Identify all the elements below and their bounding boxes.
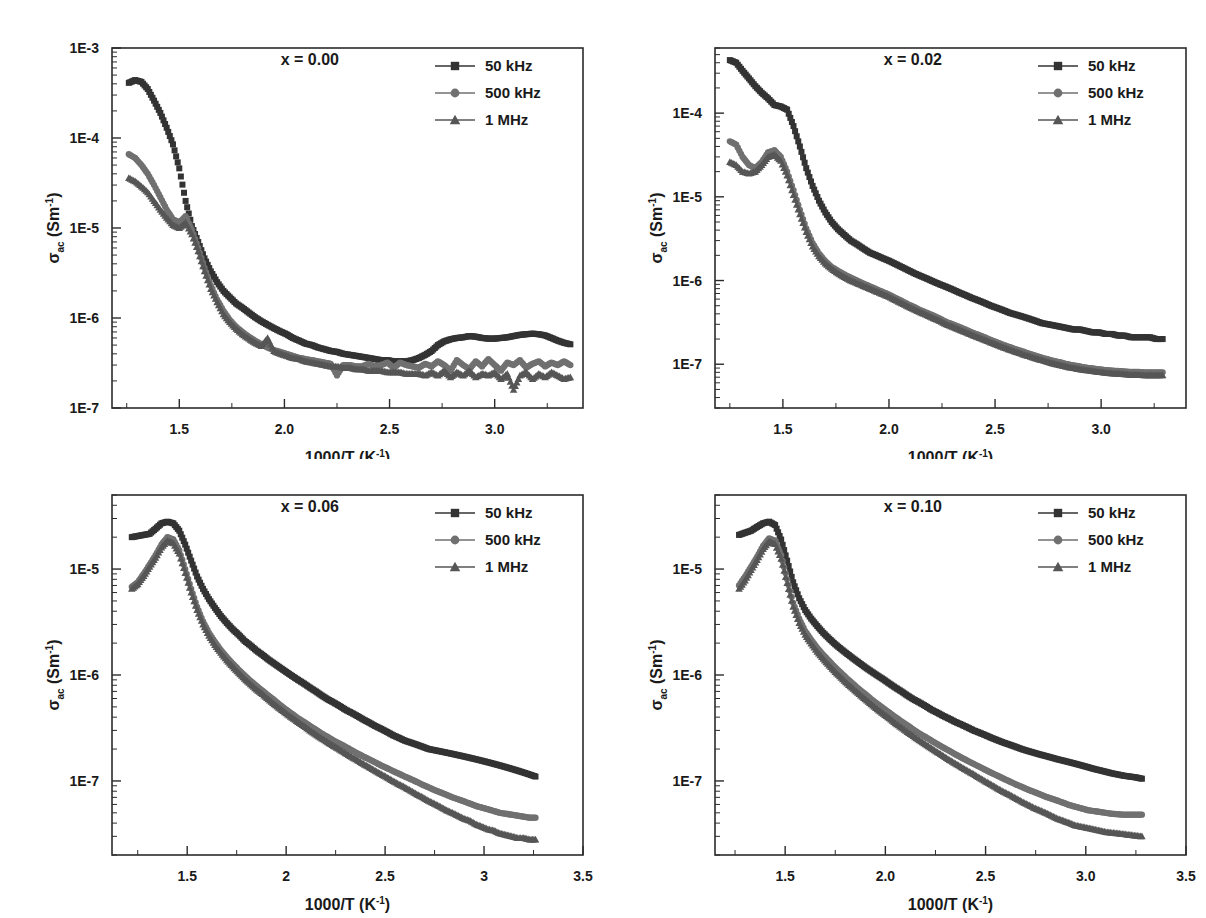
panel-title: x = 0.02 [884,51,942,68]
chart-panel-x-0-00: 1E-71E-61E-51E-41E-31.52.02.53.01000/T (… [0,0,603,459]
legend-item-50-khz[interactable]: 50 kHz [435,57,533,74]
x-tick-label: 2.0 [879,421,899,437]
x-tick-label: 1.5 [170,421,190,437]
y-axis-title: σac (Sm-1) [647,640,669,711]
svg-text:1000/T (K-1): 1000/T (K-1) [305,448,390,459]
x-tick-label: 3.5 [1176,868,1196,884]
x-tick-label: 3.0 [1076,868,1096,884]
legend-label: 1 MHz [1088,558,1131,575]
legend-item-1-mhz[interactable]: 1 MHz [435,558,528,575]
data-series-500-khz [727,138,1166,375]
svg-text:1000/T (K-1): 1000/T (K-1) [908,895,993,913]
y-tick-label: 1E-5 [672,189,702,205]
legend: 50 kHz500 kHz1 MHz [435,504,541,575]
x-tick-label: 1.5 [773,421,793,437]
legend-item-500-khz[interactable]: 500 kHz [435,84,541,101]
data-series-500-khz [126,151,574,379]
y-tick-label: 1E-7 [672,356,702,372]
x-tick-label: 3.0 [1091,421,1111,437]
x-tick-label: 2 [282,868,290,884]
legend-item-500-khz[interactable]: 500 kHz [1038,531,1144,548]
legend-label: 500 kHz [485,84,541,101]
y-tick-label: 1E-7 [672,773,702,789]
plot-frame [715,48,1186,408]
x-axis-title: 1000/T (K-1) [305,448,390,459]
y-axis-title: σac (Sm-1) [44,640,66,711]
legend-item-50-khz[interactable]: 50 kHz [435,504,533,521]
x-axis-title: 1000/T (K-1) [908,895,993,913]
plot-frame [112,495,583,855]
panel-title: x = 0.06 [281,498,339,515]
legend-item-50-khz[interactable]: 50 kHz [1038,504,1136,521]
legend-label: 500 kHz [1088,531,1144,548]
legend-label: 500 kHz [485,531,541,548]
legend-item-1-mhz[interactable]: 1 MHz [1038,111,1131,128]
x-axis-title: 1000/T (K-1) [305,895,390,913]
legend-label: 50 kHz [485,504,533,521]
x-tick-label: 2.5 [380,421,400,437]
legend-label: 1 MHz [1088,111,1131,128]
x-tick-label: 3.5 [573,868,593,884]
data-series-50-khz [736,519,1145,782]
x-tick-label: 2.5 [976,868,996,884]
y-axis-title: σac (Sm-1) [44,193,66,264]
y-tick-label: 1E-6 [69,667,99,683]
chart-panel-x-0-10: 1E-71E-61E-51.52.02.53.03.51000/T (K-1)σ… [603,459,1206,918]
x-tick-label: 2.0 [275,421,295,437]
ac-conductivity-figure: 1E-71E-61E-51E-41E-31.52.02.53.01000/T (… [0,0,1206,918]
data-series-1-mhz [735,538,1145,840]
plot-area-0: 1E-71E-61E-51E-41E-31.52.02.53.01000/T (… [0,0,603,459]
legend-label: 500 kHz [1088,84,1144,101]
y-tick-label: 1E-4 [672,105,702,121]
svg-text:1000/T (K-1): 1000/T (K-1) [305,895,390,913]
x-tick-label: 1.5 [177,868,197,884]
y-tick-label: 1E-6 [69,310,99,326]
legend-label: 50 kHz [1088,57,1136,74]
panel-title: x = 0.00 [281,51,339,68]
y-tick-label: 1E-5 [672,561,702,577]
legend-item-1-mhz[interactable]: 1 MHz [1038,558,1131,575]
x-tick-label: 3 [480,868,488,884]
y-tick-label: 1E-7 [69,773,99,789]
x-tick-label: 2.5 [985,421,1005,437]
x-tick-label: 2.5 [375,868,395,884]
x-axis-title: 1000/T (K-1) [908,448,993,459]
data-series-500-khz [129,534,539,821]
chart-panel-x-0-06: 1E-71E-61E-51.522.533.51000/T (K-1)σac (… [0,459,603,918]
x-tick-label: 2.0 [876,868,896,884]
svg-text:σac (Sm-1): σac (Sm-1) [647,640,669,711]
legend-label: 1 MHz [485,111,528,128]
legend-item-50-khz[interactable]: 50 kHz [1038,57,1136,74]
legend: 50 kHz500 kHz1 MHz [1038,57,1144,128]
plot-area-2: 1E-71E-61E-51.522.533.51000/T (K-1)σac (… [0,459,603,918]
legend-label: 1 MHz [485,558,528,575]
y-tick-label: 1E-4 [69,130,99,146]
plot-area-3: 1E-71E-61E-51.52.02.53.03.51000/T (K-1)σ… [603,459,1206,918]
data-series-500-khz [736,535,1145,818]
y-tick-label: 1E-3 [69,40,99,56]
legend: 50 kHz500 kHz1 MHz [435,57,541,128]
legend-item-500-khz[interactable]: 500 kHz [1038,84,1144,101]
svg-text:σac (Sm-1): σac (Sm-1) [44,640,66,711]
legend-item-1-mhz[interactable]: 1 MHz [435,111,528,128]
x-tick-label: 1.5 [775,868,795,884]
y-tick-label: 1E-5 [69,561,99,577]
legend-label: 50 kHz [1088,504,1136,521]
svg-text:σac (Sm-1): σac (Sm-1) [647,193,669,264]
svg-text:1000/T (K-1): 1000/T (K-1) [908,448,993,459]
y-tick-label: 1E-5 [69,220,99,236]
y-tick-label: 1E-6 [672,667,702,683]
legend: 50 kHz500 kHz1 MHz [1038,504,1144,575]
chart-panel-x-0-02: 1E-71E-61E-51E-41.52.02.53.01000/T (K-1)… [603,0,1206,459]
data-series-1-mhz [128,537,539,843]
data-series-1-mhz [726,151,1166,378]
y-tick-label: 1E-6 [672,273,702,289]
legend-label: 50 kHz [485,57,533,74]
x-tick-label: 3.0 [485,421,505,437]
y-axis-title: σac (Sm-1) [647,193,669,264]
y-tick-label: 1E-7 [69,400,99,416]
plot-area-1: 1E-71E-61E-51E-41.52.02.53.01000/T (K-1)… [603,0,1206,459]
panel-title: x = 0.10 [884,498,942,515]
legend-item-500-khz[interactable]: 500 kHz [435,531,541,548]
svg-text:σac (Sm-1): σac (Sm-1) [44,193,66,264]
